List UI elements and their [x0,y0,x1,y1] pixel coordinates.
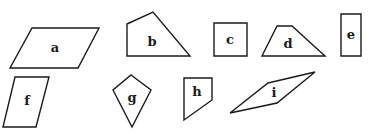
shape-i-label: i [272,85,277,100]
shape-b-label: b [147,34,156,49]
shape-d: d [262,26,325,56]
shape-h: h [184,78,212,120]
shape-g: g [113,75,151,127]
shape-d-label: d [283,36,292,51]
shape-b: b [127,12,190,56]
shape-i: i [230,72,315,113]
shape-e-label: e [347,27,355,42]
shape-g-label: g [127,90,136,105]
shape-a-label: a [51,40,60,55]
shape-c-label: c [226,32,234,47]
shape-e: e [341,14,361,56]
shape-c: c [214,23,247,56]
shapes-diagram: a b c d e f g h i [0,0,369,138]
shape-a: a [10,28,99,68]
shape-h-label: h [192,84,202,99]
shape-f: f [3,77,49,127]
shape-d-outline [262,26,325,56]
shape-f-label: f [24,93,31,108]
shape-b-outline [127,12,190,56]
